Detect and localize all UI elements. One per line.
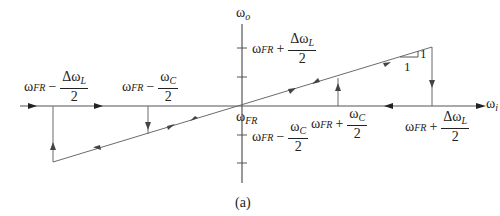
label-y-neg-capture: ωFR − ωC2 <box>252 120 308 154</box>
label-pos-capture: ωFR + ωC2 <box>311 107 367 141</box>
figure-caption: (a) <box>235 196 251 210</box>
label-y-pos-lock: ωFR + ΔωL2 <box>252 32 316 66</box>
hysteresis-diagram <box>0 0 500 216</box>
label-neg-capture: ωFR − ωC2 <box>122 70 178 104</box>
y-axis-label: ωo <box>236 6 250 22</box>
slope-rise-label: 1 <box>420 47 427 60</box>
slope-run-label: 1 <box>404 60 411 73</box>
x-axis-label: ωi <box>486 97 498 113</box>
label-pos-lock: ωFR + ΔωL2 <box>405 110 469 144</box>
label-neg-lock: ωFR − ΔωL2 <box>24 70 88 104</box>
